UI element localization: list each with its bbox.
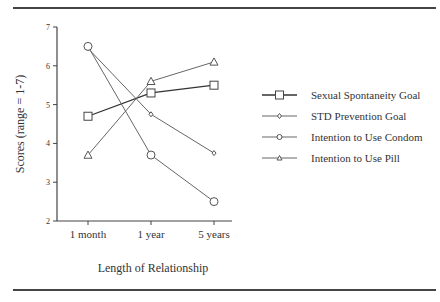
square-marker-icon <box>147 89 155 97</box>
axes: 2345671 month1 year5 years <box>46 23 232 240</box>
series-group <box>84 42 218 205</box>
triangle-marker-icon <box>210 58 218 65</box>
diamond-marker-icon <box>278 114 282 119</box>
legend-item: Intention to Use Condom <box>262 131 423 143</box>
legend-label: Intention to Use Condom <box>311 131 423 143</box>
y-tick-label: 7 <box>46 23 50 32</box>
y-tick-label: 3 <box>46 178 50 187</box>
square-marker-icon <box>210 81 218 89</box>
series-std-prevention-goal <box>86 46 216 156</box>
square-marker-icon <box>276 91 284 99</box>
circle-marker-icon <box>84 42 92 50</box>
y-tick-label: 5 <box>46 101 50 110</box>
legend-label: Intention to Use Pill <box>311 152 400 164</box>
y-tick-label: 4 <box>46 139 50 148</box>
legend-item: Sexual Spontaneity Goal <box>262 89 420 101</box>
legend-label: STD Prevention Goal <box>311 110 406 122</box>
x-tick-label: 1 month <box>70 228 107 240</box>
y-tick-label: 6 <box>46 62 50 71</box>
legend-item: STD Prevention Goal <box>262 110 406 122</box>
legend: Sexual Spontaneity GoalSTD Prevention Go… <box>262 89 423 164</box>
circle-marker-icon <box>147 151 155 159</box>
x-tick-label: 5 years <box>198 228 229 240</box>
x-tick-label: 1 year <box>137 228 165 240</box>
circle-marker-icon <box>210 198 218 206</box>
square-marker-icon <box>84 112 92 120</box>
x-axis-label: Length of Relationship <box>98 261 209 275</box>
series-line <box>88 46 214 201</box>
legend-item: Intention to Use Pill <box>262 152 400 164</box>
circle-marker-icon <box>277 135 282 140</box>
triangle-marker-icon <box>277 156 282 161</box>
legend-label: Sexual Spontaneity Goal <box>311 89 420 101</box>
series-line <box>88 48 214 153</box>
diamond-marker-icon <box>212 151 216 156</box>
line-chart: 2345671 month1 year5 years Sexual Sponta… <box>0 0 440 302</box>
y-axis-label: Scores (range = 1-7) <box>13 75 27 173</box>
y-tick-label: 2 <box>46 217 50 226</box>
